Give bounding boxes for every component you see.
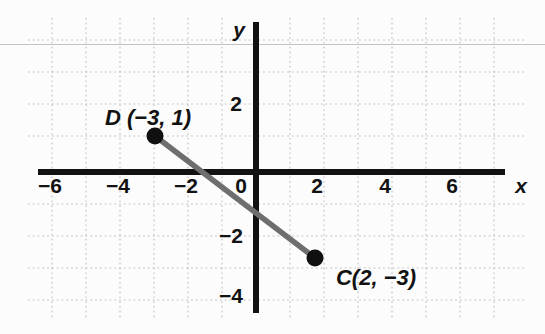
x-tick-label--4: −4 — [106, 174, 130, 198]
x-tick-label-4: 4 — [379, 174, 391, 198]
x-tick-label-2: 2 — [311, 174, 323, 198]
y-axis-label: y — [233, 18, 245, 42]
x-tick-label--6: −6 — [38, 174, 62, 198]
x-axis-label: x — [515, 174, 527, 198]
x-tick-label-6: 6 — [446, 174, 458, 198]
y-tick-label--4: −4 — [219, 284, 243, 308]
coordinate-plane-figure: −6 −4 −2 0 2 4 6 2 −2 −4 x y D (−3, 1) C… — [0, 0, 545, 334]
point-label-d: D (−3, 1) — [105, 105, 191, 131]
y-tick-label--2: −2 — [219, 224, 243, 248]
point-label-c: C(2, −3) — [336, 265, 416, 291]
segment-and-points-layer — [0, 0, 545, 334]
point-c-marker — [307, 250, 324, 267]
x-tick-label--2: −2 — [174, 174, 198, 198]
y-tick-label-2: 2 — [230, 92, 242, 116]
x-tick-label-0: 0 — [235, 174, 247, 198]
